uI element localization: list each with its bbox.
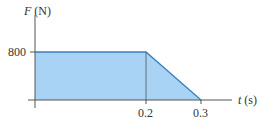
force-time-chart <box>0 0 273 132</box>
x-tick-label-03: 0.3 <box>193 106 208 121</box>
y-axis-label: F (N) <box>24 4 51 19</box>
x-tick-label-02: 0.2 <box>138 106 153 121</box>
area-fill <box>35 52 201 100</box>
x-axis-label: t (s) <box>238 93 257 108</box>
y-tick-label: 800 <box>8 45 26 60</box>
